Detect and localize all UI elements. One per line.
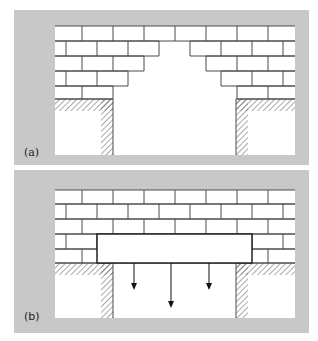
panel-label: (a) <box>24 146 39 159</box>
left-pier <box>101 263 113 318</box>
right-pier <box>236 99 248 155</box>
right-pier <box>236 263 248 318</box>
panel-b-with-lintel: (b) <box>14 170 309 333</box>
left-pier <box>101 99 113 155</box>
lintel <box>97 234 252 263</box>
panel-label: (b) <box>24 310 40 323</box>
panel-inner <box>55 26 295 155</box>
panel-a-no-lintel: (a) <box>14 10 309 165</box>
masonry-lintel-diagram: (a) (b) <box>0 0 318 341</box>
